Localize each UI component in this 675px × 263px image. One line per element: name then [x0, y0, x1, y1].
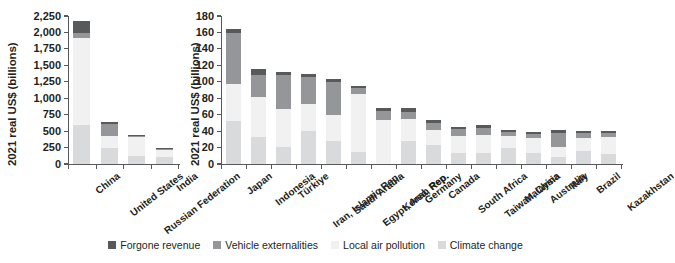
y-axis-tick	[217, 98, 221, 99]
x-axis-tick	[346, 164, 347, 169]
y-axis-tick-label: 1,000	[19, 93, 61, 104]
y-axis-tick	[217, 131, 221, 132]
bar-stack[interactable]	[326, 16, 341, 164]
bar-segment-localair	[301, 104, 316, 131]
bar-segment-vehicle	[301, 77, 316, 104]
bar-segment-climate	[73, 125, 90, 164]
bar-segment-vehicle	[376, 111, 391, 119]
bar-segment-forgone	[526, 132, 541, 134]
bar-stack[interactable]	[156, 16, 173, 164]
bar-segment-localair	[351, 94, 366, 152]
bar-segment-localair	[451, 136, 466, 152]
bar-stack[interactable]	[551, 16, 566, 164]
bar-segment-forgone	[501, 130, 516, 132]
bar-stack[interactable]	[226, 16, 241, 164]
x-axis-tick	[96, 164, 97, 169]
x-axis-tick	[123, 164, 124, 169]
bar-segment-climate	[551, 157, 566, 164]
bar-stack[interactable]	[251, 16, 266, 164]
bar-segment-forgone	[326, 79, 341, 82]
x-axis-tick	[521, 164, 522, 169]
bar-segment-vehicle	[326, 82, 341, 115]
legend-swatch-forgone-icon	[108, 241, 116, 249]
y-axis-tick	[64, 65, 68, 66]
y-axis-tick-label: 2,000	[19, 27, 61, 38]
bar-stack[interactable]	[601, 16, 616, 164]
y-axis-tick	[64, 147, 68, 148]
bar-stack[interactable]	[101, 16, 118, 164]
x-axis-tick	[546, 164, 547, 169]
bar-stack[interactable]	[576, 16, 591, 164]
y-axis-tick-label: 60	[192, 109, 214, 120]
y-axis-tick-label: 180	[192, 11, 214, 22]
legend-swatch-vehicle-icon	[213, 241, 221, 249]
bar-segment-localair	[226, 84, 241, 121]
x-axis-tick	[396, 164, 397, 169]
x-axis-tick	[621, 164, 622, 169]
x-axis-tick	[471, 164, 472, 169]
bar-segment-vehicle	[401, 112, 416, 119]
bar-stack[interactable]	[351, 16, 366, 164]
x-axis-tick	[178, 164, 179, 169]
y-axis-tick-label: 80	[192, 93, 214, 104]
bar-stack[interactable]	[401, 16, 416, 164]
bar-stack[interactable]	[376, 16, 391, 164]
bar-segment-vehicle	[276, 75, 291, 109]
bar-segment-vehicle	[251, 75, 266, 97]
bar-segment-climate	[276, 147, 291, 164]
legend-item-climate[interactable]: Climate change	[438, 240, 523, 251]
legend-swatch-climate-icon	[438, 241, 446, 249]
x-axis-tick	[446, 164, 447, 169]
bar-segment-climate	[576, 151, 591, 164]
bar-stack[interactable]	[276, 16, 291, 164]
right-plot-area: 020406080100120140160180JapanIndonesiaTü…	[221, 16, 621, 164]
bar-stack[interactable]	[476, 16, 491, 164]
x-axis-category-label: Brazil	[594, 171, 622, 196]
y-axis-tick	[217, 114, 221, 115]
bar-stack[interactable]	[451, 16, 466, 164]
bar-segment-localair	[251, 97, 266, 136]
legend-swatch-localair-icon	[331, 241, 339, 249]
bar-segment-vehicle	[501, 132, 516, 136]
bar-segment-localair	[276, 109, 291, 147]
bar-stack[interactable]	[426, 16, 441, 164]
bar-segment-forgone	[156, 148, 173, 149]
bar-segment-climate	[301, 131, 316, 164]
legend: Forgone revenueVehicle externalitiesLoca…	[0, 240, 631, 251]
x-axis-tick	[68, 164, 69, 169]
y-axis-tick-label: 0	[192, 159, 214, 170]
legend-item-vehicle[interactable]: Vehicle externalities	[213, 240, 318, 251]
bar-segment-forgone	[101, 122, 118, 124]
bar-segment-climate	[251, 137, 266, 164]
x-axis-tick	[571, 164, 572, 169]
bar-stack[interactable]	[526, 16, 541, 164]
y-axis-tick-label: 1,500	[19, 60, 61, 71]
bar-stack[interactable]	[301, 16, 316, 164]
bar-stack[interactable]	[501, 16, 516, 164]
left-y-axis-title: 2021 real US$ (billions)	[6, 42, 18, 166]
bar-segment-vehicle	[73, 33, 90, 38]
legend-label: Forgone revenue	[120, 240, 200, 251]
bar-segment-forgone	[476, 125, 491, 127]
x-axis-tick	[246, 164, 247, 169]
y-axis-tick-label: 750	[19, 109, 61, 120]
bar-segment-vehicle	[128, 136, 145, 137]
x-axis-tick	[296, 164, 297, 169]
y-axis-tick	[64, 114, 68, 115]
y-axis-tick	[64, 98, 68, 99]
y-axis-tick-label: 100	[192, 76, 214, 87]
y-axis-tick-label: 160	[192, 27, 214, 38]
x-axis-tick	[151, 164, 152, 169]
y-axis-tick-label: 2,250	[19, 11, 61, 22]
bar-segment-vehicle	[426, 123, 441, 130]
bar-stack[interactable]	[128, 16, 145, 164]
y-axis-tick-label: 0	[19, 159, 61, 170]
legend-item-forgone[interactable]: Forgone revenue	[108, 240, 200, 251]
x-axis-category-label: Japan	[245, 171, 274, 197]
left-chart-panel: 2021 real US$ (billions) 02505007501,000…	[0, 0, 185, 232]
y-axis-tick-label: 120	[192, 60, 214, 71]
bar-stack[interactable]	[73, 16, 90, 164]
bar-segment-vehicle	[576, 133, 591, 138]
legend-item-localair[interactable]: Local air pollution	[331, 240, 425, 251]
